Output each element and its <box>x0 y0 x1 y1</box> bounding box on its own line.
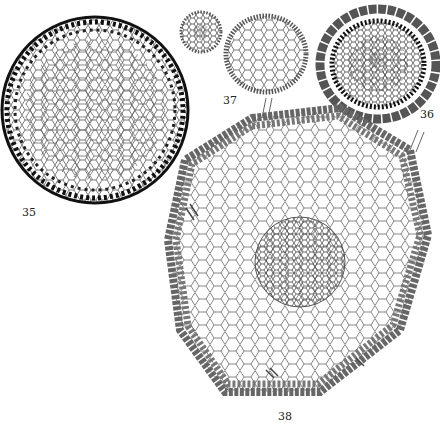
figure-36-drawing <box>320 9 436 119</box>
figure-37-drawing <box>181 12 306 92</box>
figure-plate: 35 36 37 38 <box>0 0 440 438</box>
figure-38-drawing <box>168 98 428 392</box>
plate-illustration <box>0 0 440 438</box>
figure-35-label: 35 <box>22 206 36 219</box>
figure-38-label: 38 <box>278 410 292 423</box>
figure-36-label: 36 <box>420 108 434 121</box>
figure-37-label: 37 <box>223 94 237 107</box>
figure-35-drawing <box>2 17 188 203</box>
